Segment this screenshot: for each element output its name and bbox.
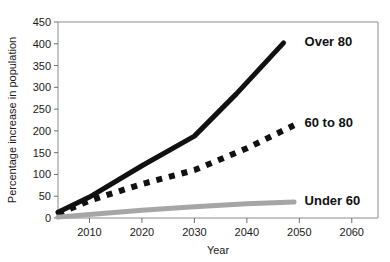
series-labels: Over 8060 to 80Under 60 [305, 34, 361, 208]
x-tick-label: 2030 [182, 226, 206, 238]
y-tick-label: 200 [33, 125, 51, 137]
x-tick-label: 2040 [235, 226, 259, 238]
y-tick-label: 50 [39, 190, 51, 202]
y-tick-label: 450 [33, 16, 51, 28]
y-axis-title: Percentage increase in population [6, 37, 18, 203]
chart-container: 050100150200250300350400450 201020202030… [0, 0, 390, 262]
series-line-60-to-80 [58, 125, 294, 213]
series-lines [58, 43, 294, 217]
y-tick-label: 400 [33, 38, 51, 50]
y-axis-ticks: 050100150200250300350400450 [33, 16, 58, 224]
y-tick-label: 0 [45, 212, 51, 224]
y-tick-label: 150 [33, 147, 51, 159]
line-chart: 050100150200250300350400450 201020202030… [0, 0, 390, 262]
x-tick-label: 2050 [287, 226, 311, 238]
y-tick-label: 100 [33, 168, 51, 180]
x-tick-label: 2060 [340, 226, 364, 238]
series-label-under-60: Under 60 [305, 193, 361, 208]
series-line-over-80 [58, 43, 284, 212]
series-line-under-60 [58, 202, 294, 217]
series-label-60-to-80: 60 to 80 [305, 115, 353, 130]
x-tick-label: 2010 [77, 226, 101, 238]
y-tick-label: 300 [33, 81, 51, 93]
y-tick-label: 350 [33, 60, 51, 72]
series-label-over-80: Over 80 [305, 34, 353, 49]
x-axis-ticks: 201020202030204020502060 [77, 218, 364, 238]
y-tick-label: 250 [33, 103, 51, 115]
x-tick-label: 2020 [130, 226, 154, 238]
x-axis-title: Year [207, 244, 230, 256]
